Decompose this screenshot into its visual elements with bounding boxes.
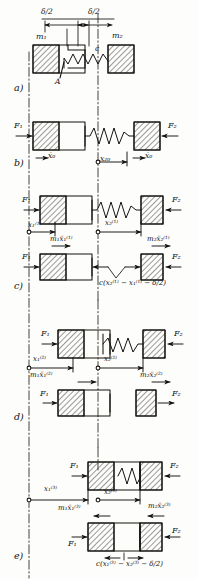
- panel-label-c: c): [14, 281, 23, 291]
- spring-a: [64, 54, 108, 68]
- inertia1-label-c: m₁ẍ₁⁽¹⁾: [50, 236, 72, 243]
- force2-label-e2: F₂: [172, 527, 181, 535]
- inertia1-label-d: m₁ẍ₁⁽²⁾: [30, 372, 52, 379]
- force1-label-c1: F₁: [22, 196, 31, 204]
- force1-label-d1: F₁: [41, 330, 50, 338]
- spring-e1: [118, 468, 140, 484]
- mass1-cavity-top-a: [68, 45, 85, 50]
- spring-b: [85, 128, 134, 144]
- force1-label-e2: F₁: [68, 540, 77, 548]
- velocity-left-label-b: ẋ₀: [48, 152, 55, 160]
- force2-label-e1: F₂: [170, 462, 179, 470]
- origin-node-c-left: [27, 230, 31, 234]
- origin-node-e-mid: [96, 498, 100, 502]
- inertia2-label-e: m₂ẍ₂⁽³⁾: [148, 503, 170, 510]
- dim-label-right: δ/2: [88, 8, 100, 16]
- mass1-hatch-c2: [40, 254, 66, 280]
- force2-label-b: F₂: [168, 122, 177, 130]
- x2-label-d: x₂⁽²⁾: [104, 356, 117, 363]
- spring-label-a: c: [95, 45, 99, 53]
- force2-label-d1: F₂: [174, 330, 183, 338]
- x1-label-c: x₁⁽¹⁾: [27, 222, 41, 229]
- mass2-hatch-c2: [141, 254, 163, 280]
- force2-label-c1: F₂: [172, 196, 181, 204]
- mass1-hatch-d1: [58, 330, 84, 358]
- x1-label-e: x₁⁽³⁾: [44, 486, 57, 493]
- x1-label-d: x₁⁽²⁾: [33, 356, 46, 363]
- mass1-hatch-e2: [88, 523, 114, 551]
- force2-label-d2: F₂: [172, 390, 181, 398]
- leader-point-a: [60, 62, 64, 78]
- mass2-hatch-b: [134, 122, 160, 150]
- mass2-hatch-c1: [141, 196, 163, 224]
- mass1-hatch-c1: [40, 196, 66, 224]
- mass1-hatch-b: [33, 122, 59, 150]
- x2-label-e: x₂⁽³⁾: [104, 489, 117, 496]
- x2-label-c: x₂⁽¹⁾: [105, 220, 118, 227]
- mass2-hatch-d1: [143, 330, 165, 358]
- velocity-right-label-b: ẋ₀: [145, 152, 152, 160]
- panel-label-d: d): [14, 412, 24, 422]
- origin-node-e-left: [27, 498, 31, 502]
- force1-label-c2: F₁: [22, 253, 31, 261]
- force2-label-c2: F₂: [172, 253, 181, 261]
- origin-node-c-mid: [96, 230, 100, 234]
- point-a-label: A: [55, 78, 60, 86]
- spring-force-label-e: c(x₁⁽³⁾ − x₂⁽³⁾ − δ/2): [96, 561, 163, 568]
- mass1-hatch-a: [33, 45, 59, 73]
- origin-node-d-mid: [96, 366, 100, 370]
- force1-label-e1: F₁: [70, 462, 79, 470]
- mass2-label-a: m₂: [112, 32, 123, 40]
- force1-label-d2: F₁: [40, 390, 49, 398]
- mass2-hatch-d2: [136, 390, 156, 416]
- x20-label-b: x₂₀: [100, 155, 110, 163]
- spring-force-label-c: c(x₂⁽¹⁾ − x₁⁽¹⁾ − δ/2): [99, 280, 166, 287]
- panel-label-b: b): [14, 158, 24, 168]
- mass1-hatch-d2: [58, 390, 84, 416]
- inertia2-label-d: m₂ẍ₂⁽²⁾: [140, 372, 162, 379]
- diagram-vector-layer: [0, 0, 198, 579]
- dim-label-left: δ/2: [41, 8, 53, 16]
- mass2-hatch-a: [108, 45, 134, 73]
- origin-node-d-left: [27, 366, 31, 370]
- inertia1-label-e: m₁ẍ₁⁽³⁾: [58, 505, 80, 512]
- mass1-hatch-e1: [88, 462, 114, 490]
- mass1-label-a: m₁: [36, 33, 47, 41]
- inertia2-label-c: m₂ẍ₂⁽¹⁾: [147, 236, 169, 243]
- mass2-hatch-e2: [140, 523, 162, 551]
- spring-c1: [92, 202, 141, 218]
- panel-label-a: a): [14, 83, 23, 93]
- spring-force-leader-c: [108, 267, 125, 278]
- mass2-hatch-e1: [140, 462, 162, 490]
- force1-label-b: F₁: [14, 122, 23, 130]
- figure-canvas: δ/2 δ/2 m₁ m₂ c A a) F₁ F₂ ẋ₀ x₂₀ ẋ₀ b) …: [0, 0, 198, 579]
- spring-d1: [103, 338, 143, 352]
- panel-label-e: e): [14, 551, 23, 561]
